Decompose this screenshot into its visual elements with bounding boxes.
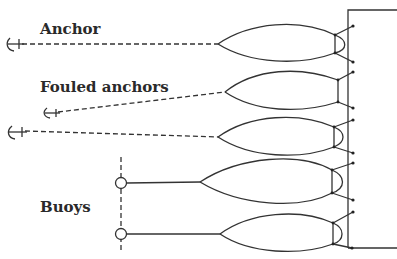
fouled-anchor-mooring-2 [25,117,353,155]
pier-block [348,10,397,248]
diagram-canvas [0,0,397,259]
fouled-anchor-icon-2 [8,126,27,139]
anchor-icon [7,38,24,51]
mooring-diagram: Anchor Fouled anchors Buoys [0,0,397,259]
buoy-2 [116,229,127,240]
fouled-anchor-icon-1 [44,108,60,118]
label-fouled-anchors: Fouled anchors [40,78,169,96]
buoy-mooring-2 [127,212,353,251]
buoy-1 [116,178,127,189]
label-anchor: Anchor [40,20,101,38]
label-buoys: Buoys [40,198,91,216]
buoy-mooring-1 [127,159,353,203]
